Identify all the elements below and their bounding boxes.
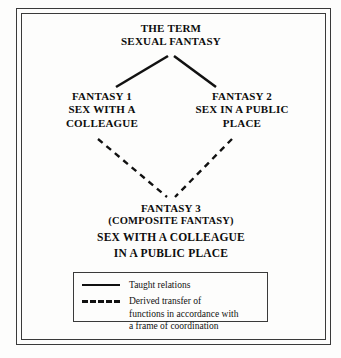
legend-box: Taught relations Derived transfer of fun… xyxy=(73,272,268,322)
node-fantasy-3-line4: IN A PUBLIC PLACE xyxy=(66,246,276,260)
node-fantasy-1-line1: FANTASY 1 xyxy=(36,90,168,103)
node-fantasy-3-line3: SEX WITH A COLLEAGUE xyxy=(66,230,276,244)
legend-row-derived: Derived transfer of functions in accorda… xyxy=(82,295,238,333)
legend-derived-line1: Derived transfer of xyxy=(129,295,238,308)
node-fantasy-2: FANTASY 2 SEX IN A PUBLIC PLACE xyxy=(172,90,312,130)
node-fantasy-1-line3: COLLEAGUE xyxy=(36,117,168,130)
node-fantasy-2-line1: FANTASY 2 xyxy=(172,90,312,103)
node-fantasy-1-line2: SEX WITH A xyxy=(36,103,168,116)
legend-derived-line3: a frame of coordination xyxy=(129,320,238,333)
node-the-term-line2: SEXUAL FANTASY xyxy=(86,35,256,48)
node-fantasy-3-line1: FANTASY 3 xyxy=(66,202,276,215)
node-the-term-line1: THE TERM xyxy=(86,22,256,35)
legend-taught-label: Taught relations xyxy=(129,279,190,292)
legend-taught-text: Taught relations xyxy=(129,279,190,292)
node-fantasy-2-line2: SEX IN A PUBLIC xyxy=(172,103,312,116)
node-fantasy-3: FANTASY 3 (COMPOSITE FANTASY) SEX WITH A… xyxy=(66,202,276,260)
legend-derived-text: Derived transfer of functions in accorda… xyxy=(129,295,238,333)
legend-derived-line2: functions in accordance with xyxy=(129,308,238,321)
node-fantasy-3-line2: (COMPOSITE FANTASY) xyxy=(66,215,276,228)
node-fantasy-1: FANTASY 1 SEX WITH A COLLEAGUE xyxy=(36,90,168,130)
relational-frame-diagram: THE TERM SEXUAL FANTASY FANTASY 1 SEX WI… xyxy=(0,0,341,358)
node-fantasy-2-line3: PLACE xyxy=(172,117,312,130)
solid-line-swatch-icon xyxy=(82,284,120,286)
legend-row-taught: Taught relations xyxy=(82,279,190,292)
node-the-term: THE TERM SEXUAL FANTASY xyxy=(86,22,256,49)
dashed-line-swatch-icon xyxy=(82,300,120,303)
